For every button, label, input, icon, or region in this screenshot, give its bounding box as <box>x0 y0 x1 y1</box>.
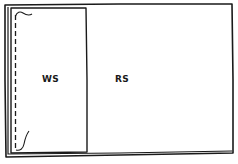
top-wavy-curve <box>16 12 33 16</box>
rs-label: RS <box>115 74 129 84</box>
bottom-wavy-curve <box>16 131 29 150</box>
ws-label: WS <box>42 74 59 84</box>
